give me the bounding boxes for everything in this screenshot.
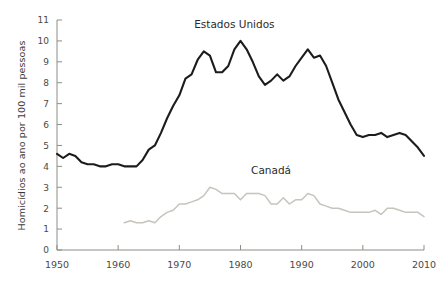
homicide-rate-line-chart: Homicídios ao ano por 100 mil pessoas 01… [0, 0, 436, 287]
series-line-estados-unidos [57, 41, 424, 166]
x-tick-label-1950: 1950 [45, 259, 69, 270]
series-label-estados-unidos: Estados Unidos [194, 18, 274, 30]
x-axis-ticks: 1950196019701980199020002010 [45, 245, 436, 270]
y-tick-label-7: 7 [43, 99, 49, 109]
y-tick-label-8: 8 [43, 78, 49, 88]
series-annotations: Estados UnidosCanadá [194, 18, 291, 175]
series-line-canadá [124, 187, 424, 223]
y-tick-label-2: 2 [43, 204, 49, 214]
series-lines [57, 41, 424, 223]
y-tick-label-10: 10 [38, 36, 50, 46]
x-tick-label-1970: 1970 [167, 259, 191, 270]
y-tick-label-3: 3 [43, 183, 49, 193]
y-axis-ticks: 01234567891011 [38, 15, 62, 255]
y-tick-label-1: 1 [43, 224, 49, 234]
y-tick-label-0: 0 [43, 245, 49, 255]
y-tick-label-11: 11 [38, 15, 49, 25]
y-tick-label-4: 4 [43, 162, 49, 172]
y-tick-label-6: 6 [43, 120, 49, 130]
y-tick-label-5: 5 [43, 141, 49, 151]
x-tick-label-1990: 1990 [290, 259, 314, 270]
chart-plot-area: 01234567891011 1950196019701980199020002… [0, 0, 436, 287]
x-tick-label-2010: 2010 [412, 259, 436, 270]
series-label-canadá: Canadá [251, 164, 291, 176]
y-tick-label-9: 9 [43, 57, 49, 67]
x-tick-label-1980: 1980 [228, 259, 252, 270]
x-tick-label-2000: 2000 [351, 259, 375, 270]
x-tick-label-1960: 1960 [106, 259, 130, 270]
